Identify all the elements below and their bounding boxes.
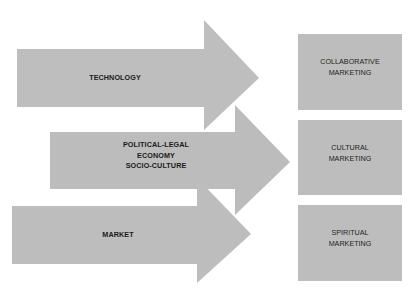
collaborative-marketing-box: COLLABORATIVE MARKETING xyxy=(298,34,402,110)
spiritual-marketing-label: SPIRITUAL MARKETING xyxy=(329,227,372,249)
label-economy: ECONOMY xyxy=(106,151,206,162)
political-economy-socio-arrow-label: POLITICAL-LEGAL ECONOMY SOCIO-CULTURE xyxy=(106,140,206,172)
cultural-marketing-label: CULTURAL MARKETING xyxy=(329,142,372,164)
collaborative-marketing-label: COLLABORATIVE MARKETING xyxy=(320,56,379,78)
market-arrow-label: MARKET xyxy=(88,230,148,241)
technology-arrow-label: TECHNOLOGY xyxy=(75,73,155,84)
spiritual-marketing-box: SPIRITUAL MARKETING xyxy=(298,205,402,281)
label-socio-culture: SOCIO-CULTURE xyxy=(106,161,206,172)
label-political-legal: POLITICAL-LEGAL xyxy=(106,140,206,151)
cultural-marketing-box: CULTURAL MARKETING xyxy=(298,120,402,195)
